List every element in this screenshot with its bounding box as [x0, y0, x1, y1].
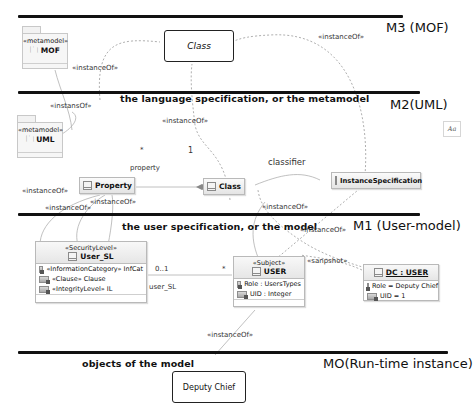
- level-label-m2: M2(UML): [390, 97, 448, 112]
- user-sl-operations-compartment: [36, 294, 146, 302]
- mof-package-name: 🗀 MOF: [23, 45, 67, 58]
- instanceof-label-dc-user: «instanceOf»: [300, 226, 346, 234]
- instance-specification-name: InstanceSpecification: [340, 177, 422, 185]
- user-sl-header: «SecurityLevel» User_SL: [36, 242, 146, 264]
- attribute-icon: [237, 281, 241, 288]
- m2-class-class[interactable]: Class: [203, 178, 245, 195]
- user-sl-attribute[interactable]: «InformationCategory» InfCat: [36, 264, 146, 274]
- m1-divider: [18, 213, 420, 216]
- font-style-widget[interactable]: Aa: [443, 121, 461, 137]
- m3-top-divider: [18, 15, 403, 18]
- class-icon: [68, 252, 77, 261]
- deputy-chief-object[interactable]: Deputy Chief: [172, 371, 246, 403]
- instanceof-label-class: «instanceOf»: [162, 117, 208, 125]
- user-sl-attribute[interactable]: «IntegrityLevel» IL: [36, 284, 146, 294]
- mof-package[interactable]: «metamodel» 🗀 MOF: [22, 33, 68, 69]
- instanceof-label-mof: «instanceOf»: [72, 64, 118, 72]
- dc-user-slot[interactable]: UID = 1: [364, 291, 438, 301]
- uml-package[interactable]: «metamodel» 🗀 UML: [17, 122, 63, 158]
- instanceof-label-user-class: «instanceOf»: [262, 203, 308, 211]
- user-sl-role-label: user_SL: [149, 283, 176, 291]
- snapshot-label: «sanpshot»: [307, 257, 348, 265]
- m0-caption: objects of the model: [82, 358, 194, 369]
- instanceof-label-m3-right: «instanceOf»: [318, 33, 364, 41]
- property-role-label: property: [130, 164, 160, 172]
- instansof-label: «instansOf»: [50, 102, 92, 110]
- attribute-icon: [39, 266, 43, 273]
- instanceof-label-deputy-chief: «instanceOf»: [207, 331, 253, 339]
- property-class-name: Property: [95, 181, 132, 190]
- uml-package-divider: [18, 152, 62, 153]
- instanceof-label-property-2: «instanceOf»: [45, 204, 91, 212]
- property-class[interactable]: Property: [79, 177, 135, 194]
- level-label-m0: MO(Run-time instance): [323, 356, 473, 371]
- m3-class-box[interactable]: Class: [164, 30, 234, 62]
- user-sl-stereotype: «SecurityLevel»: [36, 244, 146, 252]
- user-attribute[interactable]: Role : UsersTypes: [234, 279, 304, 289]
- m3-class-name: Class: [187, 41, 211, 51]
- instance-icon: [374, 268, 383, 277]
- user-sl-attribute[interactable]: «Clause» Clause: [36, 274, 146, 284]
- deputy-chief-name: Deputy Chief: [183, 383, 235, 392]
- user-sl-name: User_SL: [80, 252, 113, 261]
- slot-icon: [367, 283, 369, 290]
- class-icon: [252, 267, 261, 276]
- mof-package-stereotype: «metamodel»: [23, 37, 67, 45]
- dc-user-name: DC : USER: [386, 268, 428, 277]
- slot-icon: [367, 293, 377, 300]
- instanceof-label-property-1: «instanceOf»: [22, 187, 68, 195]
- classifier-label: classifier: [268, 157, 306, 167]
- user-attribute[interactable]: UID : Integer: [234, 289, 304, 299]
- class-icon: [207, 182, 216, 191]
- class-icon: [83, 181, 92, 190]
- user-operations-compartment: [234, 299, 304, 305]
- user-header: «Subject» USER: [234, 257, 304, 279]
- m1-caption: the user specification, or the model: [122, 221, 317, 232]
- m2-caption: the language specification, or the metam…: [120, 93, 369, 104]
- multiplicity-0-1-label: 0..1: [155, 265, 168, 273]
- class-icon: [335, 176, 337, 185]
- uml-package-name: 🗀 UML: [18, 134, 62, 147]
- m0-divider: [18, 351, 448, 354]
- mof-package-divider: [23, 63, 67, 64]
- user-name: USER: [264, 267, 286, 276]
- multiplicity-one-label: 1: [188, 146, 193, 155]
- level-label-m1: M1 (User-model): [353, 218, 461, 233]
- level-label-m3: M3 (MOF): [386, 20, 449, 35]
- attribute-icon: [237, 291, 247, 298]
- folder-icon: 🗀: [26, 135, 34, 144]
- m2-class-name: Class: [219, 182, 241, 191]
- instanceof-label-property-3: «instanceOf»: [90, 198, 136, 206]
- attribute-icon: [39, 286, 49, 293]
- multiplicity-star2-label: *: [222, 265, 226, 273]
- dc-user-header: DC : USER: [364, 265, 438, 281]
- multiplicity-many-label: *: [140, 146, 144, 154]
- dc-user-instance[interactable]: DC : USER Role = Deputy Chief UID = 1: [363, 264, 439, 301]
- attribute-icon: [39, 276, 49, 283]
- dc-user-slot[interactable]: Role = Deputy Chief: [364, 281, 438, 291]
- user-stereotype: «Subject»: [234, 259, 304, 267]
- uml-package-stereotype: «metamodel»: [18, 126, 62, 134]
- folder-icon: 🗀: [30, 46, 38, 55]
- user-sl-class[interactable]: «SecurityLevel» User_SL «InformationCate…: [35, 241, 147, 303]
- instance-specification-class[interactable]: InstanceSpecification: [331, 172, 421, 189]
- user-class[interactable]: «Subject» USER Role : UsersTypes UID : I…: [233, 256, 305, 307]
